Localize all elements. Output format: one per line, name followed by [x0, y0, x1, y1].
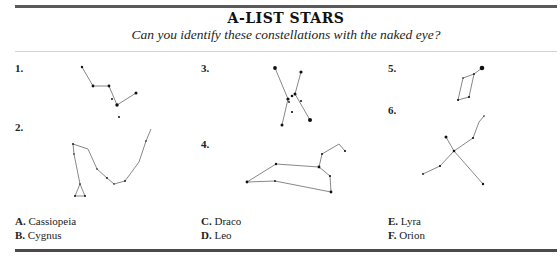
- constellation-2-lines: [73, 129, 151, 196]
- constellation-diagrams: [0, 0, 560, 257]
- constellation-3-lines-a: [275, 68, 288, 125]
- answer-a: A. Cassiopeia: [15, 214, 76, 228]
- answer-column-1: A. Cassiopeia B. Cygnus: [15, 214, 76, 242]
- answer-d: D. Leo: [201, 228, 241, 242]
- answer-b: B. Cygnus: [15, 228, 76, 242]
- answer-c: C. Draco: [201, 214, 241, 228]
- answer-f: F. Orion: [388, 228, 425, 242]
- answer-e: E. Lyra: [388, 214, 425, 228]
- answer-column-2: C. Draco D. Leo: [201, 214, 241, 242]
- constellation-3-lines-b: [295, 72, 310, 120]
- constellation-6-lines-a: [423, 116, 484, 174]
- answer-column-3: E. Lyra F. Orion: [388, 214, 425, 242]
- constellation-4-lines-head: [319, 144, 345, 167]
- bottom-rule: [15, 249, 557, 252]
- constellation-5-lines: [458, 68, 482, 100]
